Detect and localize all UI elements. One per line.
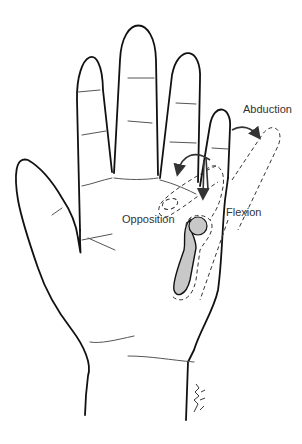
opposition-arrow	[178, 155, 210, 172]
artist-signature	[194, 384, 205, 412]
abduction-arrow	[232, 127, 258, 136]
opposed-finger-dashed	[159, 166, 224, 220]
abduction-label: Abduction	[243, 104, 292, 115]
fifth-metacarpal	[172, 216, 212, 300]
movement-arrows	[178, 127, 258, 196]
flexion-label: Flexion	[226, 207, 261, 218]
flexion-arrow	[203, 160, 204, 196]
opposition-label: Opposition	[122, 214, 175, 225]
hand-anatomy-diagram: Abduction Opposition Flexion	[0, 0, 302, 444]
